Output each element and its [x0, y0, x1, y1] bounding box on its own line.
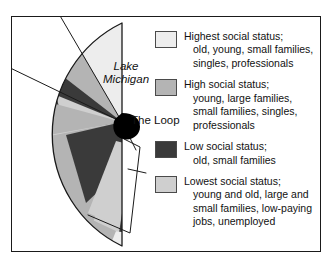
lake-michigan-line1: Lake: [114, 60, 139, 72]
legend-swatch-low: [155, 141, 177, 158]
legend-desc-highest: old, young, small families, singles, pro…: [184, 43, 317, 70]
legend-swatch-lowest: [155, 176, 177, 193]
legend-item-low: Low social status; old, small families: [155, 140, 317, 167]
lake-michigan-label: Lake Michigan: [103, 60, 149, 86]
legend-text-highest: Highest social status; old, young, small…: [184, 30, 317, 70]
legend-title-highest: Highest social status;: [184, 30, 317, 43]
legend-desc-lowest: young and old, large and small families,…: [184, 188, 317, 228]
legend-title-lowest: Lowest social status;: [184, 175, 317, 188]
legend-title-high: High social status;: [184, 78, 317, 91]
legend-swatch-highest: [155, 31, 177, 48]
sector-map: [12, 17, 172, 251]
legend-item-highest: Highest social status; old, young, small…: [155, 30, 317, 70]
legend-text-low: Low social status; old, small families: [184, 140, 276, 167]
legend-swatch-high: [155, 79, 177, 96]
legend-desc-low: old, small families: [184, 154, 276, 167]
legend-title-low: Low social status;: [184, 140, 276, 153]
legend-text-lowest: Lowest social status; young and old, lar…: [184, 175, 317, 229]
legend-desc-high: young, large families, small families, s…: [184, 92, 317, 132]
lake-michigan-line2: Michigan: [103, 73, 149, 85]
figure-canvas: Lake Michigan The Loop Highest social st…: [0, 0, 334, 268]
legend-item-lowest: Lowest social status; young and old, lar…: [155, 175, 317, 229]
legend-text-high: High social status; young, large familie…: [184, 78, 317, 132]
legend-item-high: High social status; young, large familie…: [155, 78, 317, 132]
legend: Highest social status; old, young, small…: [155, 30, 317, 237]
